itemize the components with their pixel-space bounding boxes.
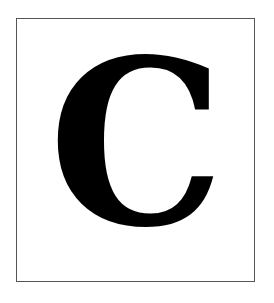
letter-card: C bbox=[16, 18, 255, 282]
letter-glyph: C bbox=[22, 13, 252, 275]
